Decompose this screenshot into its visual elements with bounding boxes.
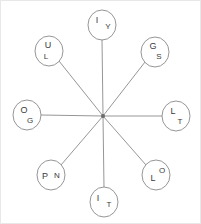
- spoke-bottom-left: [61, 116, 103, 165]
- spoke-top-right: [103, 62, 145, 116]
- node-bottom[interactable]: IT: [90, 187, 118, 217]
- spoke-bottom-right: [103, 116, 146, 165]
- spoke-top: [102, 39, 103, 116]
- node-right[interactable]: LT: [162, 101, 190, 131]
- node-right-secondary-label: T: [178, 117, 183, 126]
- node-bottom-right-circle[interactable]: [142, 160, 170, 190]
- node-bottom-circle[interactable]: [90, 187, 118, 217]
- node-top-left-primary-label: U: [45, 40, 52, 50]
- node-top-right-secondary-label: S: [156, 52, 161, 61]
- node-bottom-right-secondary-label: O: [159, 166, 165, 175]
- node-left[interactable]: OG: [13, 100, 41, 130]
- node-right-primary-label: L: [170, 106, 175, 116]
- node-bottom-right[interactable]: LO: [142, 160, 170, 190]
- radial-diagram-canvas: IYULGSOGLTPNLOIT: [1, 1, 201, 224]
- center-hub[interactable]: [101, 114, 105, 118]
- node-bottom-secondary-label: T: [107, 200, 112, 209]
- node-top-left-secondary-label: L: [44, 52, 49, 61]
- node-top-secondary-label: Y: [105, 22, 111, 31]
- spoke-left: [41, 115, 103, 116]
- node-bottom-right-primary-label: L: [150, 173, 155, 183]
- node-bottom-left[interactable]: PN: [37, 160, 65, 190]
- spoke-bottom: [103, 116, 104, 188]
- node-top-right[interactable]: GS: [141, 37, 169, 67]
- node-top-primary-label: I: [96, 15, 99, 25]
- node-top-left[interactable]: UL: [35, 36, 63, 66]
- radial-diagram-container: IYULGSOGLTPNLOIT: [0, 0, 201, 224]
- node-bottom-left-primary-label: P: [42, 171, 48, 181]
- node-left-primary-label: O: [20, 105, 27, 115]
- node-top-circle[interactable]: [88, 10, 116, 40]
- spoke-top-left: [59, 61, 103, 116]
- node-top[interactable]: IY: [88, 10, 116, 40]
- node-bottom-left-secondary-label: N: [54, 171, 60, 180]
- node-bottom-primary-label: I: [97, 193, 100, 203]
- node-right-circle[interactable]: [162, 101, 190, 131]
- node-top-right-primary-label: G: [149, 41, 156, 51]
- node-left-secondary-label: G: [27, 116, 33, 125]
